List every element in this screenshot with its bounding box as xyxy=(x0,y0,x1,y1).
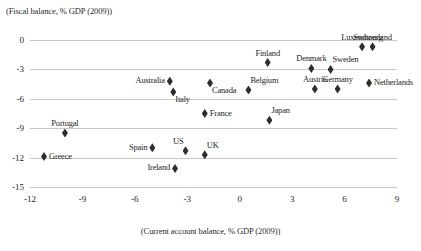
data-point-label: Portugal xyxy=(51,119,78,128)
data-point-label: Japan xyxy=(271,106,289,115)
data-point-label: Denmark xyxy=(296,54,326,63)
scatter-chart: (Fiscal balance, % GDP (2009)) GreecePor… xyxy=(0,0,421,251)
data-point-label: Finland xyxy=(255,49,280,58)
x-tick-label: 9 xyxy=(382,194,412,204)
data-point-label: Germany xyxy=(322,75,352,84)
data-point-label: Australia xyxy=(135,76,164,85)
data-point-marker xyxy=(308,64,314,73)
data-point-marker xyxy=(202,109,208,118)
y-tick-label: -15 xyxy=(2,182,24,192)
data-point-label: Ireland xyxy=(147,163,170,172)
gridline xyxy=(30,99,397,100)
data-point-marker xyxy=(183,146,189,155)
data-point-marker xyxy=(149,143,155,152)
x-axis-title: (Current account balance, % GDP (2009)) xyxy=(0,226,421,236)
data-point-marker xyxy=(312,85,318,94)
x-tick-label: 0 xyxy=(225,194,255,204)
data-point-marker xyxy=(172,164,178,173)
data-point-label: Spain xyxy=(129,143,147,152)
data-point-marker xyxy=(328,65,334,74)
data-point-marker xyxy=(167,77,173,86)
data-point-label: Switzerland xyxy=(353,33,391,42)
data-point-marker xyxy=(266,116,272,125)
x-tick-label: -3 xyxy=(172,194,202,204)
data-point-label: UK xyxy=(207,141,219,150)
data-point-label: Netherlands xyxy=(374,78,413,87)
data-point-marker xyxy=(265,58,271,67)
data-point-marker xyxy=(62,129,68,138)
data-point-marker xyxy=(41,152,47,161)
x-tick-label: -6 xyxy=(120,194,150,204)
data-point-marker xyxy=(370,42,376,51)
data-point-marker xyxy=(359,42,365,51)
data-point-marker xyxy=(366,79,372,88)
x-tick-label: 6 xyxy=(330,194,360,204)
data-point-label: US xyxy=(173,137,183,146)
data-point-label: Belgium xyxy=(250,76,278,85)
plot-area: GreecePortugalSpainIrelandUSUKAustraliaI… xyxy=(30,40,397,187)
gridline xyxy=(30,158,397,159)
gridline xyxy=(30,128,397,129)
gridline xyxy=(30,187,397,188)
x-tick-label: 3 xyxy=(277,194,307,204)
y-tick-label: -6 xyxy=(2,94,24,104)
data-point-label: Canada xyxy=(212,86,236,95)
gridline xyxy=(30,69,397,70)
data-point-label: Greece xyxy=(49,152,72,161)
x-tick-label: -12 xyxy=(15,194,45,204)
data-point-label: Italy xyxy=(175,95,190,104)
data-point-marker xyxy=(335,85,341,94)
y-tick-label: 0 xyxy=(2,35,24,45)
data-point-label: France xyxy=(210,109,232,118)
y-tick-label: -12 xyxy=(2,153,24,163)
y-tick-label: -9 xyxy=(2,123,24,133)
x-tick-label: -9 xyxy=(67,194,97,204)
data-point-label: Sweden xyxy=(333,55,359,64)
y-tick-label: -3 xyxy=(2,64,24,74)
data-point-marker xyxy=(245,85,251,94)
y-axis-title: (Fiscal balance, % GDP (2009)) xyxy=(6,6,112,16)
